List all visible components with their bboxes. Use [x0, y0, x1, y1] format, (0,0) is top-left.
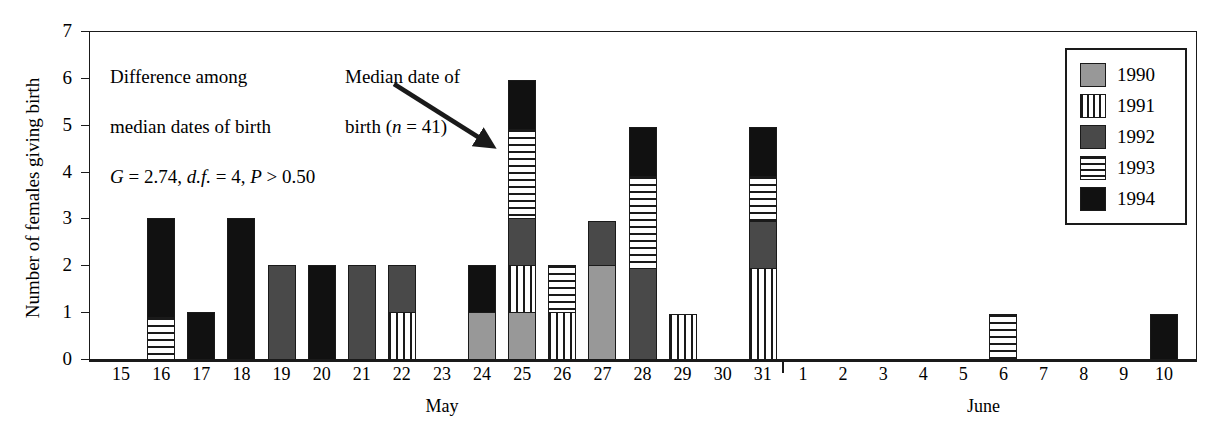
x-tick-label-june-3: 3: [861, 364, 905, 384]
month-label-may: May: [382, 396, 502, 417]
stat-df-value: = 4,: [211, 166, 250, 187]
legend-label-1993: 1993: [1117, 157, 1155, 179]
annotation-statistics-line1: Difference among: [110, 64, 315, 89]
bar-segment-1994: [468, 265, 496, 313]
bar-may-25: [508, 31, 536, 359]
bar-segment-1994: [187, 312, 215, 360]
legend-swatch-1994: [1080, 187, 1106, 211]
x-tick-label-june-9: 9: [1102, 364, 1146, 384]
x-tick-label-may-23: 23: [420, 364, 464, 384]
bar-may-26: [548, 31, 576, 359]
plot-frame-right: [1196, 31, 1197, 360]
legend: 19901991199219931994: [1065, 48, 1187, 225]
y-tick-2: [81, 265, 90, 266]
annotation-statistics-formula: G = 2.74, d.f. = 4, P > 0.50: [110, 164, 315, 189]
x-tick-label-june-5: 5: [941, 364, 985, 384]
y-tick-6: [81, 78, 90, 79]
bar-segment-1994: [147, 218, 175, 317]
y-tick-label-3: 3: [32, 208, 72, 227]
bar-june-6: [989, 31, 1017, 359]
legend-item-1994[interactable]: 1994: [1067, 183, 1185, 214]
bar-segment-1992: [508, 218, 536, 266]
bar-segment-1993: [548, 265, 576, 313]
x-tick-label-may-26: 26: [540, 364, 584, 384]
x-tick-label-june-1: 1: [781, 364, 825, 384]
x-axis-line: [89, 359, 1197, 362]
y-tick-3: [81, 218, 90, 219]
annotation-statistics: Difference among median dates of birth G…: [110, 39, 315, 214]
x-tick-label-may-22: 22: [380, 364, 424, 384]
y-tick-label-2: 2: [32, 255, 72, 274]
x-tick-label-may-29: 29: [661, 364, 705, 384]
legend-item-1993[interactable]: 1993: [1067, 152, 1185, 183]
bar-segment-1992: [388, 265, 416, 313]
annotation-median-birth-text: birth (: [345, 116, 392, 137]
legend-label-1990: 1990: [1117, 64, 1155, 86]
bar-segment-1992: [629, 268, 657, 360]
x-tick-label-may-18: 18: [219, 364, 263, 384]
legend-item-1991[interactable]: 1991: [1067, 90, 1185, 121]
y-tick-5: [81, 125, 90, 126]
x-tick-label-may-24: 24: [460, 364, 504, 384]
stat-symbol-p: P: [250, 166, 262, 187]
bar-segment-1990: [468, 312, 496, 360]
x-tick-label-june-4: 4: [901, 364, 945, 384]
stat-symbol-df: d.f.: [187, 166, 211, 187]
x-tick-label-june-2: 2: [821, 364, 865, 384]
bar-segment-1991: [508, 265, 536, 313]
bar-segment-1992: [268, 265, 296, 360]
bar-segment-1994: [629, 127, 657, 177]
y-tick-label-5: 5: [32, 115, 72, 134]
x-tick-label-may-15: 15: [99, 364, 143, 384]
stat-symbol-g: G: [110, 166, 124, 187]
x-tick-label-may-20: 20: [300, 364, 344, 384]
bar-segment-1990: [588, 265, 616, 360]
bar-may-28: [629, 31, 657, 359]
legend-item-1992[interactable]: 1992: [1067, 121, 1185, 152]
bar-segment-1993: [629, 176, 657, 268]
bar-segment-1991: [749, 268, 777, 360]
y-tick-1: [81, 312, 90, 313]
legend-label-1994: 1994: [1117, 188, 1155, 210]
bar-segment-1994: [227, 218, 255, 360]
bar-segment-1993: [749, 176, 777, 222]
x-tick-label-june-8: 8: [1062, 364, 1106, 384]
month-label-june: June: [923, 396, 1043, 417]
legend-swatch-1993: [1080, 156, 1106, 180]
bar-segment-1994: [749, 127, 777, 177]
bar-segment-1992: [588, 221, 616, 267]
bar-segment-1994: [508, 80, 536, 130]
bar-segment-1990: [508, 312, 536, 360]
bar-segment-1991: [388, 312, 416, 360]
x-tick-label-may-17: 17: [179, 364, 223, 384]
legend-swatch-1991: [1080, 94, 1106, 118]
annotation-statistics-line2: median dates of birth: [110, 114, 315, 139]
x-tick-label-may-21: 21: [340, 364, 384, 384]
bar-segment-1993: [147, 317, 175, 360]
x-tick-label-may-30: 30: [701, 364, 745, 384]
y-tick-label-6: 6: [32, 68, 72, 87]
x-tick-label-june-7: 7: [1022, 364, 1066, 384]
y-tick-label-7: 7: [32, 21, 72, 40]
bar-segment-1993: [989, 314, 1017, 360]
y-axis-line: [89, 31, 90, 360]
bar-segment-1991: [548, 312, 576, 360]
bar-may-27: [588, 31, 616, 359]
legend-label-1992: 1992: [1117, 126, 1155, 148]
legend-item-1990[interactable]: 1990: [1067, 59, 1185, 90]
bar-segment-1994: [308, 265, 336, 360]
x-tick-label-may-16: 16: [139, 364, 183, 384]
bar-segment-1994: [1150, 314, 1178, 360]
bar-segment-1992: [348, 265, 376, 360]
x-tick-label-may-31: 31: [741, 364, 785, 384]
x-tick-label-may-27: 27: [580, 364, 624, 384]
legend-swatch-1992: [1080, 125, 1106, 149]
stat-p-value: > 0.50: [262, 166, 315, 187]
legend-swatch-1990: [1080, 63, 1106, 87]
x-tick-label-may-19: 19: [260, 364, 304, 384]
median-pointer-arrow-icon: [390, 80, 510, 155]
x-tick-label-may-25: 25: [500, 364, 544, 384]
bar-segment-1992: [749, 221, 777, 269]
bar-may-31: [749, 31, 777, 359]
stat-g-value: = 2.74,: [124, 166, 187, 187]
